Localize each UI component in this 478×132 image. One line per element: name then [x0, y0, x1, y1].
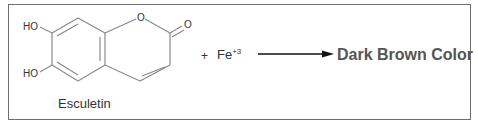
iron-charge: +3 [232, 47, 241, 56]
arrow-head-icon [322, 51, 334, 58]
iron-ion-label: Fe+3 [217, 47, 241, 62]
carbonyl-oxygen-label: O [184, 20, 192, 30]
esculetin-structure [0, 0, 478, 132]
compound-name: Esculetin [58, 96, 111, 111]
ring-oxygen-label: O [137, 13, 145, 23]
hydroxyl-label-bottom: HO [23, 69, 38, 79]
hydroxyl-label-top: HO [23, 22, 38, 32]
product-label: Dark Brown Color [337, 46, 473, 64]
iron-symbol: Fe [217, 47, 232, 62]
plus-sign: + [201, 49, 208, 63]
